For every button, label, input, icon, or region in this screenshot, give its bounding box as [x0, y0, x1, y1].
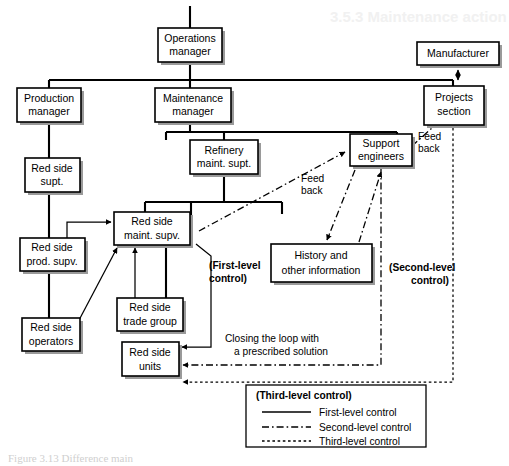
closing-loop-line1: Closing the loop with: [225, 333, 319, 344]
first-level-line2: control): [209, 273, 247, 284]
node-red-side-trade-group: Red side trade group: [117, 298, 186, 334]
node-red-side-operators: Red side operators: [22, 318, 83, 354]
node-label-line1: Red side: [131, 215, 173, 227]
feedback-upper-line2: back: [418, 143, 440, 154]
arrow-prodsupv-to-maintsupv: [67, 222, 111, 238]
node-label-line2: manager: [172, 105, 214, 117]
node-label-line2: manager: [28, 105, 70, 117]
node-label-line2: engineers: [358, 150, 404, 162]
node-projects-section: Projects section: [424, 86, 487, 128]
annotation-closing-the-loop: Closing the loop with a prescribed solut…: [225, 333, 328, 357]
node-label-line2: operators: [29, 335, 73, 347]
node-label-line2: trade group: [123, 315, 177, 327]
annotation-feedback-lower: Feed back: [301, 173, 325, 196]
node-red-side-prod-supv: Red side prod. supv.: [20, 238, 88, 274]
node-label-line2: section: [437, 105, 470, 117]
node-label-line2: manager: [169, 45, 211, 57]
node-support-engineers: Support engineers: [350, 134, 415, 169]
arrow-history-to-support: [359, 172, 381, 242]
legend-label-second: Second-level control: [319, 422, 411, 433]
legend-label-third: Third-level control: [319, 436, 400, 447]
node-operations-manager: Operations manager: [158, 28, 225, 65]
node-production-manager: Production manager: [17, 88, 84, 125]
node-label-line1: Production: [24, 92, 74, 104]
node-label-line2: prod. supv.: [26, 255, 77, 267]
node-label-line2: maint. supt.: [197, 157, 251, 169]
feedback-lower-line1: Feed: [301, 173, 325, 184]
second-level-line2: control): [411, 275, 449, 286]
node-manufacturer: Manufacturer: [417, 42, 502, 68]
feedback-lower-line2: back: [301, 185, 323, 196]
legend-label-first: First-level control: [319, 407, 397, 418]
node-red-side-maint-supv: Red side maint. supv.: [114, 212, 193, 248]
diagram-canvas: 3.5.3 Maintenance action: [0, 0, 509, 466]
node-history-and-other-information: History and other information: [271, 244, 375, 285]
node-label-line1: Support: [363, 137, 400, 149]
node-label-line1: Red side: [31, 162, 73, 174]
node-label-line1: Refinery: [204, 144, 244, 156]
legend-title: (Third-level control): [256, 390, 352, 401]
node-label-line1: History and: [294, 249, 347, 261]
node-label-line1: Red side: [129, 301, 171, 313]
closing-loop-line2: a prescribed solution: [234, 346, 328, 357]
node-label-line1: Manufacturer: [427, 47, 489, 59]
node-label-line1: Red side: [129, 346, 171, 358]
node-label-line1: Red side: [30, 321, 72, 333]
node-maintenance-manager: Maintenance manager: [155, 88, 234, 125]
first-level-line1: (First-level: [209, 260, 261, 271]
feedback-upper-line1: Feed: [418, 131, 442, 142]
node-label-line2: units: [139, 360, 161, 372]
node-label-line2: other information: [282, 264, 361, 276]
node-label-line1: Projects: [435, 91, 473, 103]
annotation-first-level-control: (First-level control): [209, 260, 261, 284]
figure-caption-clip: Figure 3.13 Difference main: [0, 452, 509, 466]
arrow-maintsupv-to-units: [182, 244, 211, 347]
node-label-line1: Operations: [164, 32, 215, 44]
figure-caption: Figure 3.13 Difference main: [8, 452, 133, 464]
annotation-second-level-control: (Second-level control): [389, 262, 455, 286]
arrow-support-to-history: [327, 170, 355, 240]
node-label-line1: Red side: [31, 241, 73, 253]
node-red-side-supt: Red side supt.: [25, 158, 83, 195]
bleed-through-text: 3.5.3 Maintenance action: [330, 8, 507, 25]
node-label-line2: maint. supv.: [124, 229, 180, 241]
second-level-line1: (Second-level: [389, 262, 455, 273]
node-label-line2: supt.: [41, 175, 64, 187]
legend: (Third-level control) First-level contro…: [246, 385, 426, 447]
annotation-feedback-upper: Feed back: [418, 131, 442, 154]
node-label-line1: Maintenance: [163, 92, 223, 104]
node-red-side-units: Red side units: [122, 342, 182, 379]
node-refinery-maint-supt: Refinery maint. supt.: [190, 140, 261, 177]
